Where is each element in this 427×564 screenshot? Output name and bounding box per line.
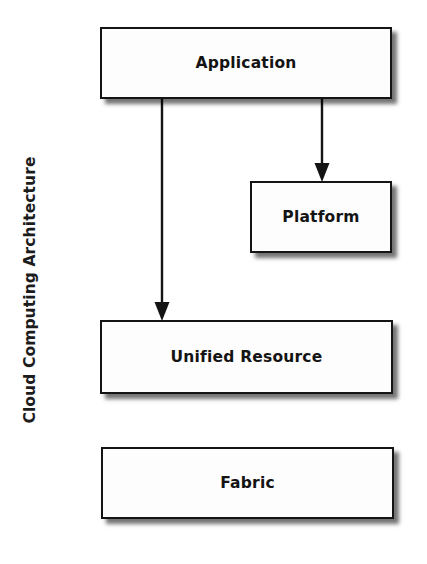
node-platform-label: Platform: [282, 208, 359, 226]
node-fabric-label: Fabric: [220, 474, 275, 492]
node-fabric[interactable]: Fabric: [101, 447, 394, 519]
node-application[interactable]: Application: [100, 27, 392, 99]
node-platform[interactable]: Platform: [250, 181, 392, 253]
node-application-label: Application: [195, 54, 296, 72]
node-unified-resource[interactable]: Unified Resource: [100, 320, 393, 394]
node-unified-resource-label: Unified Resource: [171, 348, 323, 366]
diagram-canvas: Cloud Computing Architecture Application…: [0, 0, 427, 564]
